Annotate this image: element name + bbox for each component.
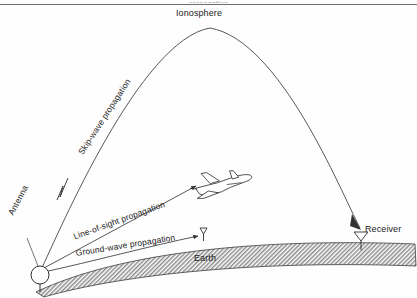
wave-break-zigzag (57, 178, 68, 200)
midpoint-antenna-symbol (200, 228, 207, 241)
transmit-antenna-symbol (27, 238, 49, 292)
propagation-diagram-figure: propagation (0, 0, 417, 298)
label-earth: Earth (194, 253, 216, 263)
airplane-icon (190, 171, 252, 199)
label-ionosphere: Ionosphere (176, 8, 222, 18)
skip-wave-arrowhead (350, 214, 361, 230)
label-receiver: Receiver (365, 224, 401, 234)
